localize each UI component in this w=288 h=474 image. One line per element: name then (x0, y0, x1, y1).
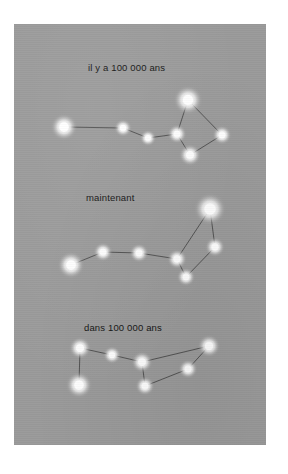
star-core-icon (76, 344, 84, 352)
star-marker (135, 376, 155, 396)
star-core-icon (174, 256, 181, 263)
constellation-figure-plate: il y a 100 000 ans maintenant dans 100 0… (14, 24, 266, 445)
star-marker (139, 129, 156, 146)
star-core-icon (100, 249, 107, 256)
star-marker (167, 124, 187, 144)
star-marker (205, 237, 226, 258)
star-core-icon (66, 260, 75, 269)
caption-past-epoch: il y a 100 000 ans (88, 62, 165, 73)
star-core-icon (138, 358, 145, 365)
star-core-icon (183, 274, 189, 280)
star-marker (103, 346, 122, 365)
star-marker (131, 351, 153, 373)
star-marker (176, 267, 195, 286)
star-core-icon (185, 366, 192, 373)
constellation-sky-canvas (14, 24, 266, 445)
star-core-icon (219, 132, 226, 139)
star-core-icon (183, 95, 193, 105)
star-marker (93, 242, 113, 262)
star-marker (179, 144, 202, 167)
star-marker (65, 371, 92, 398)
star-marker (197, 334, 221, 358)
star-marker (167, 249, 188, 270)
star-marker (173, 85, 203, 115)
star-core-icon (174, 131, 181, 138)
star-marker (69, 337, 92, 360)
star-marker (50, 113, 78, 141)
star-marker (129, 243, 149, 263)
star-core-icon (109, 352, 115, 358)
star-marker (178, 359, 198, 379)
star-core-icon (59, 122, 68, 131)
star-core-icon (205, 342, 213, 350)
caption-present-epoch: maintenant (86, 192, 135, 203)
star-core-icon (142, 383, 149, 390)
star-core-icon (120, 125, 126, 131)
star-marker (212, 125, 232, 145)
star-core-icon (136, 250, 143, 257)
star-core-icon (204, 203, 215, 214)
star-marker (193, 192, 226, 225)
star-core-icon (145, 135, 151, 141)
constellation-link-dans-100-000-ans-s4-s5 (146, 347, 204, 361)
star-core-icon (212, 244, 219, 251)
figure-page: il y a 100 000 ans maintenant dans 100 0… (0, 0, 288, 474)
star-core-icon (186, 151, 194, 159)
star-core-icon (74, 380, 83, 389)
star-marker (57, 251, 85, 279)
caption-future-epoch: dans 100 000 ans (84, 322, 162, 333)
star-marker (114, 119, 133, 138)
constellation-stars (50, 85, 232, 399)
